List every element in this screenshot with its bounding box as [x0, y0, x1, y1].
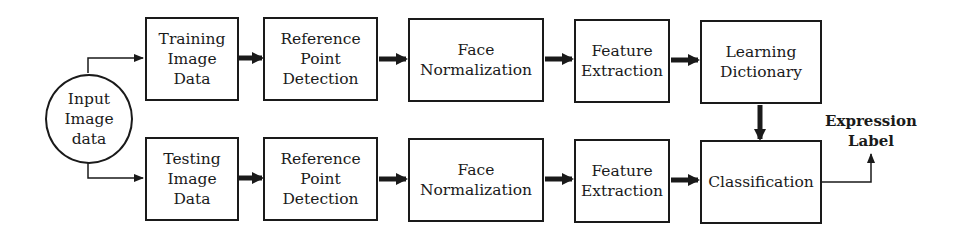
- feature-extraction-test-node: Feature Extraction: [574, 139, 670, 223]
- testing-image-data-node: Testing Image Data: [145, 137, 239, 221]
- training-image-data-node: Training Image Data: [145, 17, 239, 101]
- edge-classification-label: [822, 154, 871, 182]
- edge-input-testing: [88, 163, 143, 178]
- learning-dictionary-node: Learning Dictionary: [700, 20, 822, 104]
- face-normalization-test-node: Face Normalization: [408, 138, 544, 222]
- expression-label: Expression Label: [815, 111, 927, 151]
- edge-input-training: [88, 58, 143, 73]
- reference-point-detection-train-node: Reference Point Detection: [263, 17, 378, 101]
- input-image-data-node: Input Image data: [45, 74, 133, 164]
- feature-extraction-train-node: Feature Extraction: [574, 19, 670, 103]
- face-normalization-train-node: Face Normalization: [408, 18, 544, 102]
- reference-point-detection-test-node: Reference Point Detection: [263, 137, 378, 221]
- classification-node: Classification: [700, 140, 822, 224]
